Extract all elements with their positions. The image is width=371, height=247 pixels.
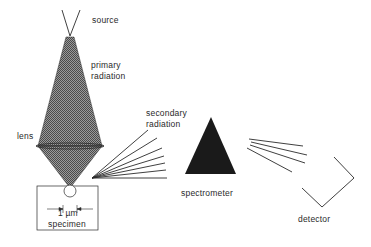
label-source: source — [92, 15, 119, 25]
label-secondary-radiation-1: secondary — [146, 108, 187, 118]
label-scale: 1 µm — [58, 208, 78, 218]
detector-icon — [302, 157, 354, 207]
source-icon — [62, 10, 80, 36]
secondary-radiation-rays — [92, 130, 167, 178]
spectrometer-prism-icon — [185, 117, 236, 174]
label-specimen: specimen — [48, 219, 86, 229]
dispersed-rays — [247, 139, 307, 172]
label-spectrometer: spectrometer — [181, 188, 233, 198]
interaction-volume-icon — [64, 185, 76, 197]
focused-beam — [38, 146, 102, 188]
label-secondary-radiation-2: radiation — [146, 119, 180, 129]
label-primary-radiation-1: primary — [91, 60, 121, 70]
label-detector: detector — [298, 214, 330, 224]
electron-microprobe-diagram — [0, 0, 371, 247]
primary-radiation-beam — [38, 37, 102, 146]
label-primary-radiation-2: radiation — [91, 71, 125, 81]
label-lens: lens — [17, 131, 33, 141]
